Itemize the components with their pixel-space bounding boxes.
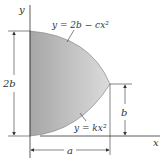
dim-a-label: a xyxy=(67,145,73,156)
x-axis-label: x xyxy=(153,137,159,148)
y-axis-label: y xyxy=(18,4,25,15)
shaded-area xyxy=(30,31,110,136)
leader-upper xyxy=(67,30,74,42)
lower-curve-equation: y = kx² xyxy=(73,123,107,133)
area-diagram: y x y = 2b − cx² y = kx² 2b b a xyxy=(0,0,164,163)
dim-2b-label: 2b xyxy=(2,78,16,89)
dim-b-label: b xyxy=(121,107,127,118)
upper-curve-equation: y = 2b − cx² xyxy=(51,20,109,30)
